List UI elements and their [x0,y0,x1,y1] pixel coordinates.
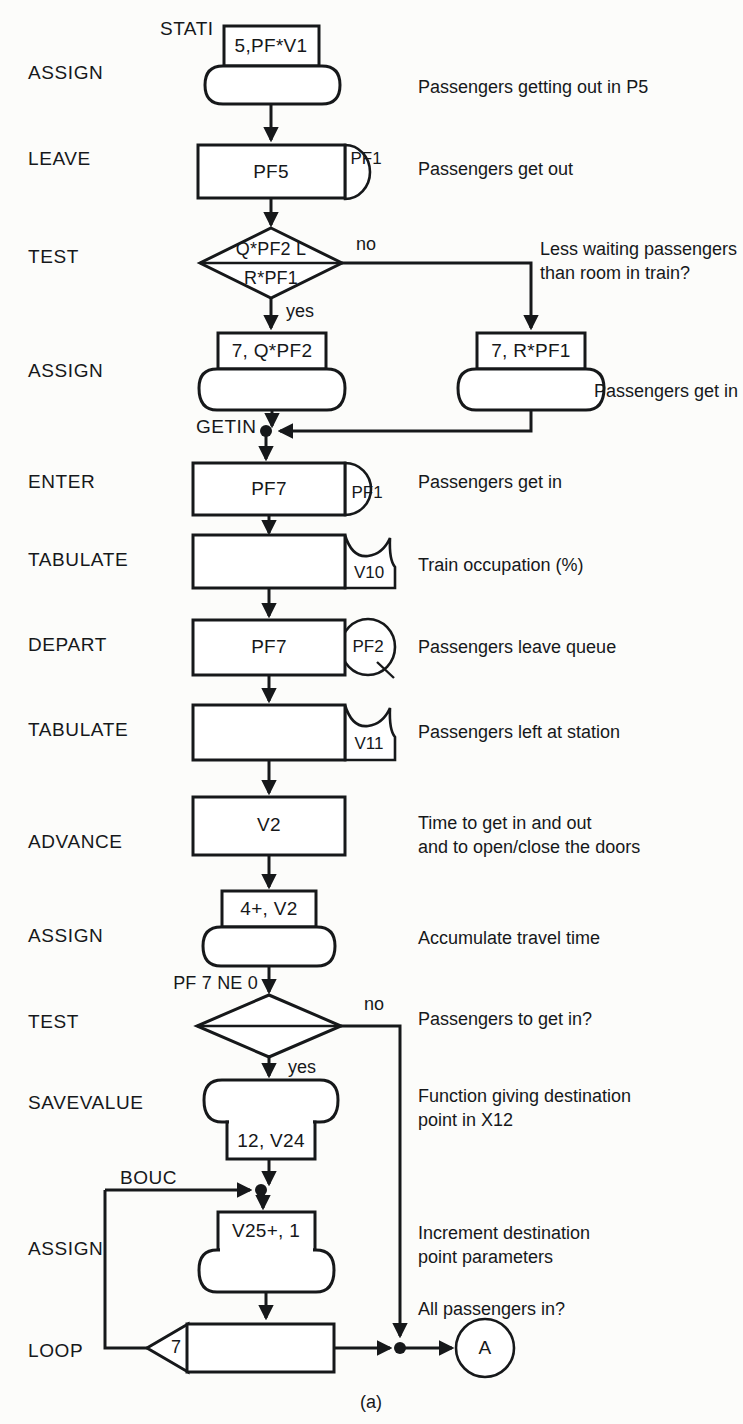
description-assign-4-line1: Increment destination [418,1223,590,1243]
assign-3-param-text: 4+, V2 [240,898,297,919]
assign-3-body [203,927,335,966]
junction-bouc [255,1184,267,1196]
flow-tag-getin: GETIN [196,416,257,437]
assign-3-seam [224,929,314,932]
branch-label-test1-no: no [356,234,376,254]
savevalue-param-text: 12, V24 [237,1130,305,1151]
op-label-tabulate-1: TABULATE [28,549,128,570]
description-tabulate-1: Train occupation (%) [418,555,583,575]
description-loop: All passengers in? [418,1299,565,1319]
loop-body [187,1324,334,1372]
description-savevalue-line2: point in X12 [418,1110,513,1130]
connector-a-text: A [479,1337,492,1358]
assign-4-param-text: V25+, 1 [232,1220,300,1241]
description-leave: Passengers get out [418,159,573,179]
block-leave[interactable]: PF5 PF1 [198,145,382,199]
description-advance-line2: and to open/close the doors [418,837,640,857]
op-label-assign-3: ASSIGN [28,925,103,946]
description-savevalue-line1: Function giving destination [418,1086,631,1106]
depart-body-text: PF7 [251,636,287,657]
block-tabulate-2[interactable]: V11 [193,705,395,760]
block-assign-1[interactable]: 5,PF*V1 [205,26,340,104]
op-label-tabulate-2: TABULATE [28,719,128,740]
op-label-enter: ENTER [28,471,95,492]
op-label-loop: LOOP [28,1340,83,1361]
test-1-line2: R*PF1 [244,268,298,288]
assign-2-right-body [458,369,604,410]
branch-label-test2-no: no [364,994,384,1014]
block-assign-2-right[interactable]: 7, R*PF1 [458,333,604,410]
description-assign-3: Accumulate travel time [418,928,600,948]
flow-tag-stati: STATI [160,18,214,39]
op-label-test-1: TEST [28,246,79,267]
tabulate-2-annot-text: V11 [355,734,384,753]
block-assign-2-left[interactable]: 7, Q*PF2 [199,333,345,410]
enter-annot-text: PF1 [351,483,382,502]
description-test-1-line2: than room in train? [540,263,690,283]
edge-test2-no [341,1026,400,1336]
assign-4-body [199,1250,334,1292]
edge-loop-back [105,1190,147,1348]
leave-annot-text: PF1 [350,149,381,168]
block-savevalue[interactable]: 12, V24 [204,1080,338,1159]
loop-param-triangle [147,1324,188,1372]
assign-4-seam [220,1248,313,1252]
description-tabulate-2: Passengers left at station [418,722,620,742]
block-assign-3[interactable]: 4+, V2 [203,891,335,966]
op-label-savevalue: SAVEVALUE [28,1092,144,1113]
block-loop[interactable]: 7 [147,1324,334,1372]
advance-body-text: V2 [257,814,281,835]
op-label-assign-1: ASSIGN [28,62,103,83]
description-test-1-line1: Less waiting passengers [540,239,737,259]
tabulate-2-body [193,705,345,760]
block-test-2[interactable]: PF 7 NE 0 [173,973,341,1057]
op-label-assign-4: ASSIGN [28,1238,103,1259]
block-assign-4[interactable]: V25+, 1 [199,1212,334,1292]
description-depart: Passengers leave queue [418,637,616,657]
assign-1-body [205,66,340,104]
description-assign-4-line2: point parameters [418,1247,553,1267]
branch-label-test2-yes: yes [288,1057,316,1077]
op-label-test-2: TEST [28,1011,79,1032]
flow-tag-bouc: BOUC [120,1167,177,1188]
depart-annot-text: PF2 [352,637,383,656]
op-label-leave: LEAVE [28,148,91,169]
assign-2-left-body [199,369,345,410]
branch-label-test1-yes: yes [286,301,314,321]
op-label-assign-2: ASSIGN [28,360,103,381]
description-test-2: Passengers to get in? [418,1009,592,1029]
loop-param-text: 7 [171,1337,181,1357]
assign-2-left-seam [220,371,324,374]
leave-body-text: PF5 [253,161,289,182]
savevalue-body [204,1080,338,1122]
test-2-condition-text: PF 7 NE 0 [173,973,258,993]
op-label-depart: DEPART [28,634,107,655]
assign-2-right-seam [479,371,583,374]
block-test-1[interactable]: Q*PF2 L R*PF1 [200,228,342,298]
figure-caption: (a) [360,1392,382,1412]
op-label-advance: ADVANCE [28,831,123,852]
block-advance[interactable]: V2 [193,797,345,855]
assign-1-seam [226,68,317,71]
description-assign-2: Passengers get in [594,381,738,401]
description-advance-line1: Time to get in and out [418,813,591,833]
assign-2-right-param-text: 7, R*PF1 [491,340,571,361]
assign-1-param-text: 5,PF*V1 [235,35,308,56]
assign-2-left-param-text: 7, Q*PF2 [232,340,313,361]
flowchart-svg: 5,PF*V1 PF5 PF1 Q*PF2 L R*PF1 7, Q*PF2 7… [0,0,743,1424]
tabulate-1-body [193,535,345,588]
figure-canvas: 5,PF*V1 PF5 PF1 Q*PF2 L R*PF1 7, Q*PF2 7… [0,0,743,1424]
edge-assignright-to-getin [280,410,531,431]
block-enter[interactable]: PF7 PF1 [193,463,383,515]
description-enter: Passengers get in [418,472,562,492]
block-depart[interactable]: PF7 PF2 [193,619,395,678]
block-tabulate-1[interactable]: V10 [193,535,395,588]
enter-body-text: PF7 [251,478,287,499]
test-1-line1: Q*PF2 L [236,239,306,259]
savevalue-seam [229,1120,313,1124]
edge-test1-no [342,263,531,328]
description-assign-1: Passengers getting out in P5 [418,77,648,97]
tabulate-1-annot-text: V10 [354,563,384,582]
